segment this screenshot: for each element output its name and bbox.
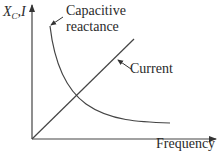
capacitive-leader-arrow [51,17,63,25]
capacitive-reactance-label: Capacitive reactance [66,3,126,35]
current-line [32,39,134,139]
current-label: Current [130,62,173,76]
x-axis-label: Frequency [156,137,215,151]
y-axis-label: XC,I [3,5,26,21]
capacitive-label-line2: reactance [66,19,126,35]
capacitive-label-line1: Capacitive [66,3,126,19]
